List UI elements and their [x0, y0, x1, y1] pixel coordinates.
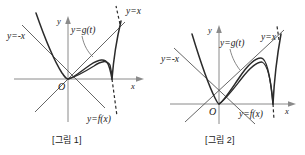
label-y-equals-x-figure-1: y=x — [125, 6, 142, 16]
label-y-equals-g-of-t-figure-2: y=g(t) — [219, 38, 244, 49]
figure-pair-container: y=-x y=g(t) y=x y=f(x) O x y — [0, 0, 305, 155]
label-y-equals-g-of-t-figure-1: y=g(t) — [70, 25, 95, 36]
label-y-equals-negative-x-figure-1: y=-x — [6, 31, 26, 41]
label-y-equals-x-figure-2: y=x — [260, 32, 277, 42]
label-y-equals-f-of-x-figure-2: y=f(x) — [238, 109, 263, 120]
label-y-equals-f-of-x-figure-1: y=f(x) — [86, 114, 111, 125]
y-axis-label-figure-2: y — [207, 25, 212, 35]
figure-2-caption: [그림 2] — [205, 133, 235, 146]
dashed-top-figure-2 — [277, 26, 279, 40]
x-axis-label-figure-1: x — [130, 81, 135, 91]
dashed-branch-figure-1 — [112, 79, 117, 116]
x-axis-label-figure-2: x — [284, 106, 289, 116]
figure-1-caption: [그림 1] — [52, 133, 82, 146]
y-axis-label-figure-1: y — [56, 16, 61, 26]
label-y-equals-negative-x-figure-2: y=-x — [160, 54, 180, 64]
figure-1-graph: y=-x y=g(t) y=x y=f(x) O x y — [0, 0, 165, 132]
x-axis-figure-2 — [170, 101, 296, 107]
origin-label-figure-1: O — [58, 81, 65, 92]
figure-2-graph: y=-x y=g(t) y=x y=f(x) O x y — [160, 0, 305, 132]
dashed-top-figure-1 — [116, 6, 120, 24]
origin-label-figure-2: O — [209, 106, 216, 117]
dashed-branch-figure-2 — [273, 104, 274, 120]
leader-g-figure-2 — [230, 49, 240, 70]
x-axis-figure-1 — [14, 76, 144, 82]
line-y-equals-x-figure-1 — [35, 22, 125, 112]
leader-g-figure-1 — [82, 36, 93, 57]
